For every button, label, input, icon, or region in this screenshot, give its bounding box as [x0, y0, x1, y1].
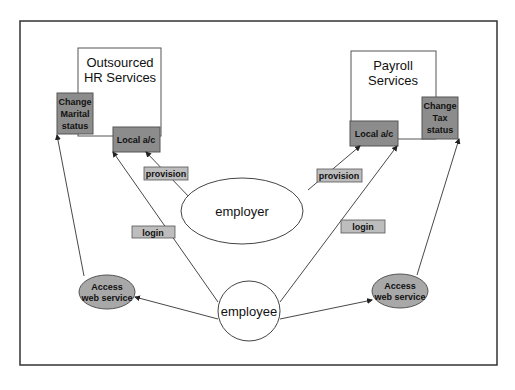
- login-left-label: login: [142, 228, 164, 238]
- payroll-services-title-2: Services: [368, 73, 418, 88]
- employer-node: employer: [181, 178, 303, 244]
- change-tax-line3: status: [427, 125, 454, 135]
- access-left-line2: web service: [80, 293, 132, 303]
- access-right-line2: web service: [373, 292, 425, 302]
- change-marital-line3: status: [62, 121, 89, 131]
- employee-label: employee: [221, 304, 277, 319]
- change-marital-line2: Marital: [60, 109, 89, 119]
- access-web-service-right: Access web service: [372, 274, 428, 308]
- hr-payroll-diagram: Outsourced HR Services Change Marital st…: [0, 0, 515, 390]
- change-marital-line1: Change: [58, 97, 91, 107]
- access-left-line1: Access: [91, 282, 123, 292]
- hr-services-title-2: HR Services: [84, 70, 157, 85]
- employee-node: employee: [218, 281, 280, 341]
- edge-label-provision-left: provision: [144, 167, 188, 180]
- access-web-service-left: Access web service: [79, 275, 135, 309]
- edge-label-provision-right: provision: [317, 169, 362, 182]
- hr-local-ac-label: Local a/c: [117, 135, 156, 145]
- change-tax-line1: Change: [423, 101, 456, 111]
- provision-right-label: provision: [319, 171, 360, 181]
- edge-label-login-right: login: [341, 220, 385, 233]
- payroll-services-title-1: Payroll: [373, 58, 413, 73]
- payroll-local-ac-label: Local a/c: [355, 129, 394, 139]
- change-tax-line2: Tax: [433, 113, 448, 123]
- provision-left-label: provision: [146, 169, 187, 179]
- login-right-label: login: [352, 222, 374, 232]
- edge-label-login-left: login: [132, 226, 175, 238]
- hr-services-title-1: Outsourced: [86, 55, 153, 70]
- employer-label: employer: [215, 204, 269, 219]
- access-right-line1: Access: [384, 281, 416, 291]
